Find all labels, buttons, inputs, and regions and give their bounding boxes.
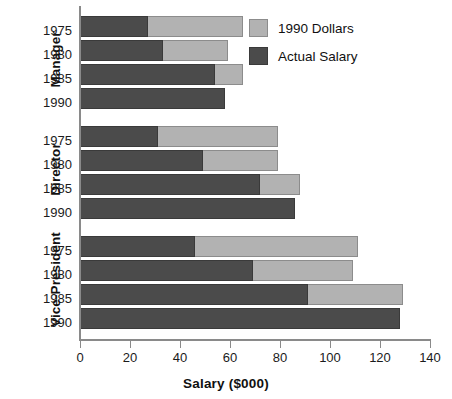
- legend-swatch-actual-salary: [249, 47, 268, 65]
- x-tick-label-40: 40: [160, 350, 200, 365]
- x-tick-label-0: 0: [60, 350, 100, 365]
- legend-label-1990-dollars: 1990 Dollars: [278, 21, 354, 36]
- year-label-vice-president-1985: 1985: [26, 292, 72, 305]
- x-tick-80: [280, 341, 281, 348]
- x-tick-140: [430, 341, 431, 348]
- legend-label-actual-salary: Actual Salary: [278, 49, 358, 64]
- x-tick-0: [80, 341, 81, 348]
- x-tick-label-60: 60: [210, 350, 250, 365]
- x-axis-line: [79, 339, 431, 341]
- legend: 1990 Dollars Actual Salary: [249, 19, 358, 75]
- year-label-manager-1980: 1980: [26, 48, 72, 61]
- x-tick-label-100: 100: [310, 350, 350, 365]
- legend-item-1990-dollars: 1990 Dollars: [249, 19, 358, 37]
- legend-item-actual-salary: Actual Salary: [249, 47, 358, 65]
- year-label-manager-1985: 1985: [26, 72, 72, 85]
- year-label-director-1985: 1985: [26, 182, 72, 195]
- x-tick-label-140: 140: [410, 350, 450, 365]
- x-tick-label-20: 20: [110, 350, 150, 365]
- x-tick-label-80: 80: [260, 350, 300, 365]
- bar-director-1985-actual-salary: [80, 174, 260, 195]
- bar-manager-1985-actual-salary: [80, 64, 215, 85]
- bar-director-1990-actual-salary: [80, 198, 295, 219]
- bar-manager-1975-actual-salary: [80, 16, 148, 37]
- bar-vice-president-1990-actual-salary: [80, 308, 400, 329]
- bar-manager-1980-actual-salary: [80, 40, 163, 61]
- bar-vice-president-1980-actual-salary: [80, 260, 253, 281]
- bar-chart: Manager Director Vice-President 1975 198…: [0, 0, 452, 399]
- year-label-vice-president-1990: 1990: [26, 316, 72, 329]
- year-label-vice-president-1975: 1975: [26, 244, 72, 257]
- x-tick-120: [380, 341, 381, 348]
- bar-director-1980-actual-salary: [80, 150, 203, 171]
- year-label-director-1975: 1975: [26, 134, 72, 147]
- year-label-manager-1975: 1975: [26, 24, 72, 37]
- bar-vice-president-1975-actual-salary: [80, 236, 195, 257]
- bar-director-1975-actual-salary: [80, 126, 158, 147]
- legend-swatch-1990-dollars: [249, 19, 268, 37]
- x-axis-title: Salary ($000): [0, 376, 452, 391]
- year-label-manager-1990: 1990: [26, 96, 72, 109]
- y-axis-line: [79, 6, 81, 340]
- bar-vice-president-1985-actual-salary: [80, 284, 308, 305]
- x-tick-label-120: 120: [360, 350, 400, 365]
- x-tick-40: [180, 341, 181, 348]
- bar-manager-1990-actual-salary: [80, 88, 225, 109]
- x-tick-100: [330, 341, 331, 348]
- x-tick-20: [130, 341, 131, 348]
- year-label-director-1980: 1980: [26, 158, 72, 171]
- x-tick-60: [230, 341, 231, 348]
- year-label-vice-president-1980: 1980: [26, 268, 72, 281]
- year-label-director-1990: 1990: [26, 206, 72, 219]
